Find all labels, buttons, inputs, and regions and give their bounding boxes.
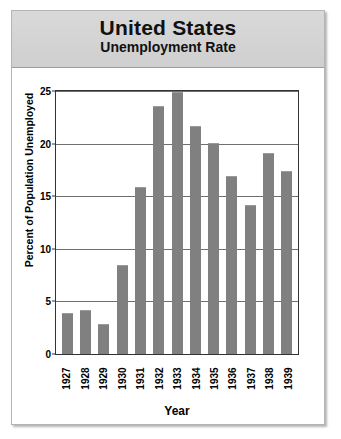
chart-area: Percent of Population Unemployed 0510152… [12,68,324,424]
bar-slot [131,91,149,354]
x-label-slot: 1934 [186,357,204,403]
bar-slot [150,91,168,354]
bar-1929[interactable] [98,324,109,355]
bar-slot [58,91,76,354]
x-label-slot: 1936 [223,357,241,403]
x-label-slot: 1935 [205,357,223,403]
bar-1933[interactable] [172,92,183,354]
y-tick-label: 15 [40,191,51,202]
bar-1936[interactable] [226,176,237,354]
bar-1928[interactable] [80,310,91,354]
chart-panel: United States Unemployment Rate Percent … [11,10,325,425]
bar-slot [259,91,277,354]
bar-slot [186,91,204,354]
x-label-slot: 1928 [75,357,93,403]
bar-slot [113,91,131,354]
y-tick-label: 20 [40,138,51,149]
bar-1930[interactable] [117,265,128,354]
bar-1935[interactable] [208,143,219,354]
plot-inner: 0510152025 [56,91,298,354]
x-tick-label-1937: 1937 [245,367,256,389]
bar-1937[interactable] [245,205,256,354]
bar-slot [223,91,241,354]
bar-slot [95,91,113,354]
x-tick-label-1932: 1932 [153,367,164,389]
x-label-slot: 1930 [112,357,130,403]
bar-slot [241,91,259,354]
y-tick-label: 5 [45,296,51,307]
x-tick-label-1938: 1938 [264,367,275,389]
bar-series [56,91,298,354]
x-tick-label-1935: 1935 [208,367,219,389]
bar-1932[interactable] [153,106,164,354]
bar-1938[interactable] [263,153,274,354]
chart-title-sub: Unemployment Rate [12,40,324,55]
bar-slot [168,91,186,354]
chart-title-band: United States Unemployment Rate [12,11,324,68]
x-label-slot: 1933 [168,357,186,403]
y-axis-title: Percent of Population Unemployed [23,80,35,280]
x-tick-label-1936: 1936 [227,367,238,389]
bar-1927[interactable] [62,313,73,354]
bar-1934[interactable] [190,126,201,354]
x-tick-label-1928: 1928 [79,367,90,389]
x-label-slot: 1929 [94,357,112,403]
x-tick-label-1939: 1939 [282,367,293,389]
x-label-slot: 1937 [242,357,260,403]
y-tick-label: 0 [45,349,51,360]
x-axis-title: Year [55,404,299,418]
x-tick-label-1930: 1930 [116,367,127,389]
x-tick-label-1933: 1933 [172,367,183,389]
x-label-slot: 1927 [57,357,75,403]
x-tick-label-1929: 1929 [98,367,109,389]
y-tick-label: 25 [40,86,51,97]
bar-slot [278,91,296,354]
bar-1931[interactable] [135,187,146,354]
bar-1939[interactable] [281,171,292,354]
figure-root: United States Unemployment Rate Percent … [0,0,341,439]
x-tick-label-1931: 1931 [135,367,146,389]
chart-title-main: United States [12,17,324,39]
x-axis-tick-labels: 1927192819291930193119321933193419351936… [55,357,299,403]
bar-slot [205,91,223,354]
x-label-slot: 1939 [279,357,297,403]
bar-slot [76,91,94,354]
plot-box: 0510152025 [55,90,299,355]
y-tick-label: 10 [40,243,51,254]
x-label-slot: 1931 [131,357,149,403]
x-label-slot: 1932 [149,357,167,403]
x-label-slot: 1938 [260,357,278,403]
x-tick-label-1934: 1934 [190,367,201,389]
x-tick-label-1927: 1927 [61,367,72,389]
